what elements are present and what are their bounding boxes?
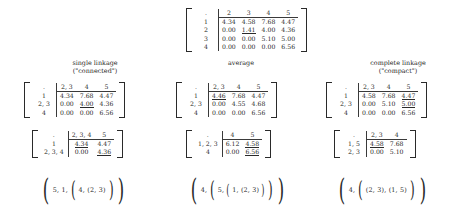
bracket-right <box>117 130 123 158</box>
matrix-cell: 7.68 <box>229 92 249 101</box>
matrix-cell: 0.00 <box>219 43 239 51</box>
bracket-right <box>410 130 416 158</box>
average-linkage-step1-matrix: .2, 34514.467.684.472, 30.004.554.6840.0… <box>176 82 277 118</box>
single-linkage-step2-matrix: .2, 3, 4514.344.472, 3, 40.004.36 <box>32 130 123 158</box>
matrix-cell: 4.36 <box>278 26 298 34</box>
matrix-table: .2, 34514.467.684.472, 30.004.554.6840.0… <box>185 83 268 117</box>
matrix-cell: 5.00 <box>399 100 419 108</box>
matrix-cell: 5.00 <box>278 35 298 43</box>
matrix-row-label: 1, 2, 3 <box>195 140 222 149</box>
matrix-cell: 4.47 <box>249 92 269 101</box>
matrix-cell: 4.58 <box>242 140 262 149</box>
matrix-cell: 7.68 <box>77 92 97 101</box>
matrix-cell: 7.68 <box>379 92 399 101</box>
matrix-row: 1, 54.587.68 <box>343 140 407 149</box>
caption-line-2: ("compact") <box>338 67 458 75</box>
matrix-cell: 4.34 <box>68 140 94 149</box>
matrix-col-header: 4 <box>77 83 97 92</box>
matrix-row: 14.587.684.47 <box>335 92 418 101</box>
matrix-cell-selected-value: 4.58 <box>370 140 384 148</box>
matrix-row: 20.001.414.004.36 <box>195 26 298 34</box>
matrix-table: .2, 34514.347.684.472, 30.004.004.3640.0… <box>33 83 116 117</box>
matrix-cell: 0.00 <box>219 26 239 34</box>
matrix-corner-cell: . <box>33 83 57 92</box>
matrix-col-header: 5 <box>399 83 419 92</box>
matrix-cell: 5.10 <box>387 148 407 156</box>
caption-complete-linkage: complete linkage ("compact") <box>338 59 458 76</box>
matrix-row-label: 1 <box>33 92 57 101</box>
matrix-cell: 4.55 <box>229 100 249 108</box>
matrix-cell: 4.00 <box>77 100 97 108</box>
caption-average: average <box>186 59 296 67</box>
matrix-cell: 0.00 <box>209 100 229 108</box>
caption-line-1: single linkage <box>40 59 150 67</box>
matrix-row-label: 1, 5 <box>343 140 367 149</box>
matrix-col-header: 5 <box>278 9 298 18</box>
matrix-corner-cell: . <box>195 9 219 18</box>
caption-line-2: ("connected") <box>40 67 150 75</box>
matrix-row-label: 2, 3 <box>185 100 209 108</box>
matrix-corner-cell: . <box>343 131 367 140</box>
bracket-right <box>271 82 277 118</box>
matrix-table: .451, 2, 36.124.5840.006.56 <box>195 131 262 157</box>
matrix-corner-cell: . <box>195 131 222 140</box>
matrix-row-label: 1 <box>185 92 209 101</box>
matrix-cell: 4.47 <box>399 92 419 101</box>
matrix-row: 2, 30.004.004.36 <box>33 100 116 108</box>
matrix-header-row: .2, 3, 45 <box>41 131 114 140</box>
matrix-cell: 0.00 <box>57 100 77 108</box>
matrix-cell: 0.00 <box>239 35 259 43</box>
matrix-row: 40.000.006.56 <box>33 109 116 117</box>
matrix-col-header: 5 <box>249 83 269 92</box>
matrix-cell-selected-value: 4.00 <box>80 100 94 108</box>
matrix-row-label: 4 <box>195 43 219 51</box>
matrix-cell: 4.58 <box>367 140 387 149</box>
complete-linkage-result: (4,((2, 3), (1, 5))) <box>336 186 428 194</box>
matrix-header-row: .2, 345 <box>335 83 418 92</box>
matrix-cell: 4.58 <box>239 18 259 27</box>
caption-single-linkage: single linkage ("connected") <box>40 59 150 76</box>
matrix-row-label: 4 <box>195 148 222 156</box>
matrix-row-label: 4 <box>33 109 57 117</box>
matrix-row: 40.000.006.56 <box>185 109 268 117</box>
matrix-cell: 4.36 <box>97 100 117 108</box>
matrix-corner-cell: . <box>185 83 209 92</box>
matrix-header-row: .2, 345 <box>185 83 268 92</box>
matrix-table: .234514.344.587.684.4720.001.414.004.363… <box>195 9 298 51</box>
matrix-cell-selected-value: 4.47 <box>402 92 416 100</box>
matrix-col-header: 4 <box>259 9 279 18</box>
matrix-cell-selected-value: 4.58 <box>245 140 259 148</box>
matrix-row: 14.344.587.684.47 <box>195 18 298 27</box>
matrix-cell: 0.00 <box>209 109 229 117</box>
matrix-row: 40.000.006.56 <box>335 109 418 117</box>
matrix-cell: 6.56 <box>399 109 419 117</box>
matrix-row-label: 2 <box>195 26 219 34</box>
matrix-cell: 5.10 <box>379 100 399 108</box>
matrix-row: 2, 30.005.105.00 <box>335 100 418 108</box>
matrix-cell: 4.00 <box>259 26 279 34</box>
matrix-cell: 0.00 <box>222 148 242 156</box>
matrix-row-label: 2, 3 <box>335 100 359 108</box>
matrix-corner-cell: . <box>41 131 68 140</box>
matrix-cell: 0.00 <box>359 100 379 108</box>
cluster-expression-text: 4, <box>348 186 357 194</box>
matrix-row-label: 1 <box>335 92 359 101</box>
matrix-row: 2, 30.004.554.68 <box>185 100 268 108</box>
matrix-col-header: 3 <box>239 9 259 18</box>
matrix-cell: 4.46 <box>209 92 229 101</box>
matrix-cell: 6.56 <box>278 43 298 51</box>
matrix-row-label: 2, 3, 4 <box>41 148 68 156</box>
cluster-expression-text: 4, <box>200 186 209 194</box>
matrix-row: 1, 2, 36.124.58 <box>195 140 262 149</box>
matrix-row-label: 1 <box>41 140 68 149</box>
cluster-expression-text: 4, (2, 3) <box>78 186 107 194</box>
matrix-cell: 4.68 <box>249 100 269 108</box>
bracket-right <box>301 8 307 52</box>
matrix-cell: 0.00 <box>259 43 279 51</box>
matrix-row-label: 4 <box>335 109 359 117</box>
matrix-cell: 0.00 <box>77 109 97 117</box>
complete-linkage-step2-matrix: .2, 341, 54.587.682, 30.005.10 <box>334 130 416 158</box>
matrix-cell-selected-value: 6.56 <box>245 148 259 156</box>
bracket-right <box>265 130 271 158</box>
matrix-cell: 0.00 <box>229 109 249 117</box>
